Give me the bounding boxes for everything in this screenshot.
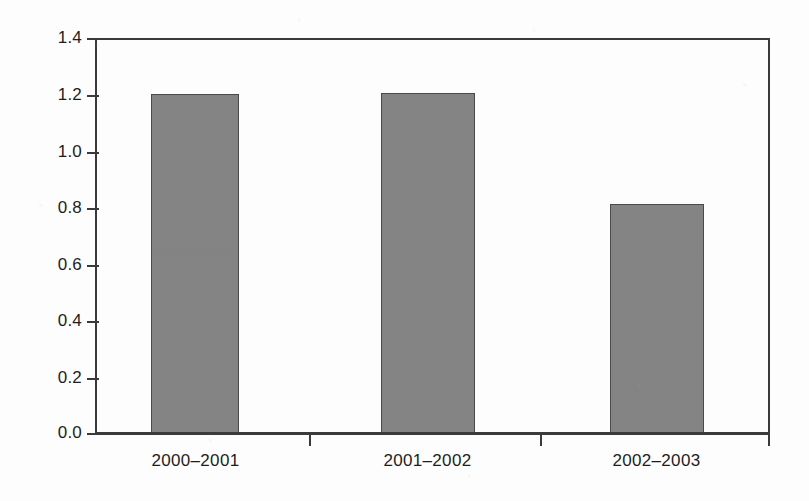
x-axis-tick-3: [768, 435, 770, 446]
x-axis-label-2001-2002: 2001–2002: [350, 452, 505, 471]
y-axis-tick-0.2: [87, 378, 99, 380]
bar-2000-2001: [151, 94, 239, 434]
y-axis-label-group: 0.8: [22, 199, 82, 217]
x-axis-label-2002-2003: 2002–2003: [579, 452, 734, 471]
bar-2001-2002: [381, 93, 475, 434]
y-axis-label-group: 0.4: [22, 312, 82, 330]
y-axis-label-group: 1.2: [22, 86, 82, 104]
y-axis-tick-label: 0.0: [30, 424, 82, 441]
y-axis-tick-1.2: [87, 95, 99, 97]
bar-chart: 1.4 1.2 1.0 0.8 0.6 0.4 0.2 0.0 2000–200…: [0, 0, 809, 501]
y-axis-tick-1.4: [87, 38, 99, 40]
x-axis-tick-1: [309, 435, 311, 446]
x-axis-label-2000-2001: 2000–2001: [118, 452, 273, 471]
y-axis-tick-0.4: [87, 321, 99, 323]
y-axis-label-group: 0.2: [22, 369, 82, 387]
y-axis-tick-label: 1.2: [30, 86, 82, 103]
y-axis-label-group: 1.0: [22, 143, 82, 161]
y-axis-tick-label: 0.8: [30, 199, 82, 216]
y-axis-tick-label: 0.6: [30, 256, 82, 273]
y-axis-tick-label: 0.2: [30, 369, 82, 386]
y-axis-label-group: 1.4: [22, 29, 82, 47]
y-axis-tick-label: 0.4: [30, 312, 82, 329]
y-axis-label-group: 0.6: [22, 256, 82, 274]
x-axis-tick-2: [540, 435, 542, 446]
y-axis-tick-label: 1.4: [30, 29, 82, 46]
y-axis-tick-0.8: [87, 208, 99, 210]
bar-2002-2003: [610, 204, 704, 434]
y-axis-tick-0.6: [87, 265, 99, 267]
y-axis-tick-label: 1.0: [30, 143, 82, 160]
y-axis-tick-1.0: [87, 152, 99, 154]
x-axis-baseline: [95, 432, 770, 435]
y-axis-label-group: 0.0: [22, 424, 82, 442]
